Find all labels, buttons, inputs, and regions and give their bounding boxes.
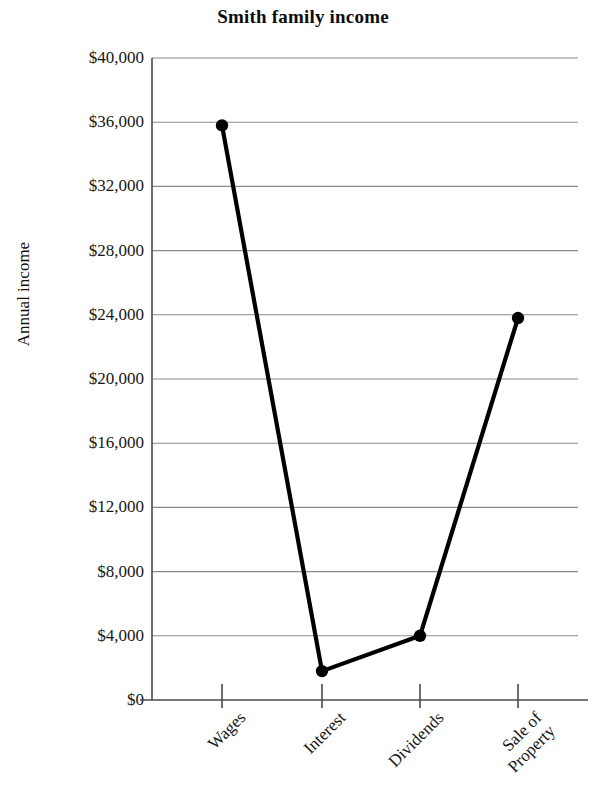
x-axis-tick-labels: WagesInterestDividendsSale ofProperty [0, 0, 606, 805]
x-axis-tick-label-line: Interest [300, 708, 349, 757]
x-axis-tick-label-line: Wages [204, 708, 249, 753]
x-axis-tick-label: Wages [24, 708, 250, 805]
x-axis-tick-label-line: Dividends [385, 708, 448, 771]
chart-container: Smith family income Annual income $0$4,0… [0, 0, 606, 805]
